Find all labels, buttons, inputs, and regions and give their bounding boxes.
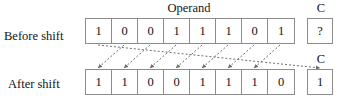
shift-arrow (150, 45, 176, 68)
bit-cell: 1 (190, 19, 216, 43)
after-shift-label: After shift (8, 78, 60, 91)
bit-cell: 0 (242, 19, 268, 43)
bit-cell: 0 (138, 70, 164, 94)
shift-arrow (202, 45, 228, 68)
bit-cell: 1 (242, 70, 268, 94)
bit-cell: 0 (164, 70, 190, 94)
shift-arrow (98, 45, 124, 68)
operand-row-after-shift: 1 1 0 0 1 1 1 0 (85, 69, 295, 95)
bit-cell: 1 (216, 19, 242, 43)
bit-cell: 1 (112, 70, 138, 94)
bit-cell: 1 (216, 70, 242, 94)
carry-title-after: C (307, 53, 335, 66)
bit-cell: 0 (268, 70, 294, 94)
bit-cell: 0 (138, 19, 164, 43)
shift-arrow (176, 45, 202, 68)
before-shift-label: Before shift (4, 30, 63, 43)
bit-cell: 1 (86, 19, 112, 43)
bit-cell: 1 (268, 19, 294, 43)
operand-title: Operand (85, 2, 293, 15)
bit-cell: 1 (86, 70, 112, 94)
bit-cell: 1 (164, 19, 190, 43)
shift-arrow (98, 45, 320, 68)
shift-operation-diagram: Operand C C Before shift After shift 1 0… (0, 0, 344, 105)
bit-cell: 1 (190, 70, 216, 94)
shift-arrow (254, 45, 280, 68)
bit-cell: 0 (112, 19, 138, 43)
shift-arrow (124, 45, 150, 68)
carry-box-after-shift: 1 (307, 69, 333, 95)
shift-arrow (228, 45, 254, 68)
carry-title-before: C (307, 2, 335, 15)
carry-box-before-shift: ? (307, 18, 333, 44)
operand-row-before-shift: 1 0 0 1 1 1 0 1 (85, 18, 295, 44)
